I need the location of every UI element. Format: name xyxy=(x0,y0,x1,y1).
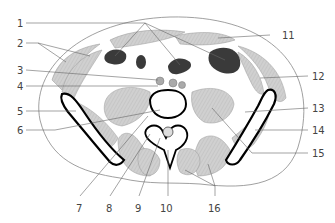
label-4: 4 xyxy=(17,82,23,92)
label-3: 3 xyxy=(17,66,23,76)
spinal-canal xyxy=(163,127,173,137)
label-13: 13 xyxy=(312,104,325,114)
vertebral-body xyxy=(150,90,186,118)
bowel-small-left xyxy=(136,55,146,69)
vessel-3 xyxy=(179,82,186,89)
vessel-1 xyxy=(156,77,164,85)
label-14: 14 xyxy=(312,126,325,136)
vessel-2 xyxy=(169,79,177,87)
label-2: 2 xyxy=(17,39,23,49)
label-11: 11 xyxy=(282,31,295,41)
label-1: 1 xyxy=(17,19,23,29)
label-12: 12 xyxy=(312,72,325,82)
label-15: 15 xyxy=(312,149,325,159)
label-5: 5 xyxy=(17,107,23,117)
anatomy-diagram: 1 2 3 4 5 6 7 8 9 10 11 12 13 14 15 16 xyxy=(0,0,335,223)
label-9: 9 xyxy=(135,204,141,214)
label-6: 6 xyxy=(17,126,23,136)
label-10: 10 xyxy=(160,204,173,214)
label-8: 8 xyxy=(106,204,112,214)
label-16: 16 xyxy=(208,204,221,214)
label-7: 7 xyxy=(76,204,82,214)
